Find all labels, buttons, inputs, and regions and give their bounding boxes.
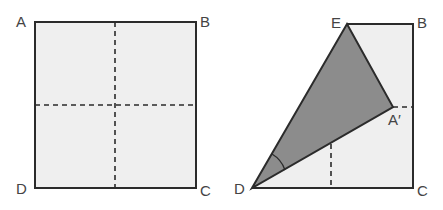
label-B: B bbox=[200, 13, 210, 30]
folding-diagram: A B D C E B A′ D C bbox=[0, 0, 443, 210]
label-C: C bbox=[200, 182, 211, 199]
label-D-right: D bbox=[234, 180, 245, 197]
left-square: A B D C bbox=[16, 13, 211, 199]
label-D: D bbox=[16, 180, 27, 197]
label-C-right: C bbox=[417, 182, 428, 199]
label-A: A bbox=[16, 13, 26, 30]
label-A-prime: A′ bbox=[388, 111, 401, 128]
label-B-right: B bbox=[417, 14, 427, 31]
label-E: E bbox=[331, 14, 341, 31]
right-folded-figure: E B A′ D C bbox=[234, 14, 428, 199]
